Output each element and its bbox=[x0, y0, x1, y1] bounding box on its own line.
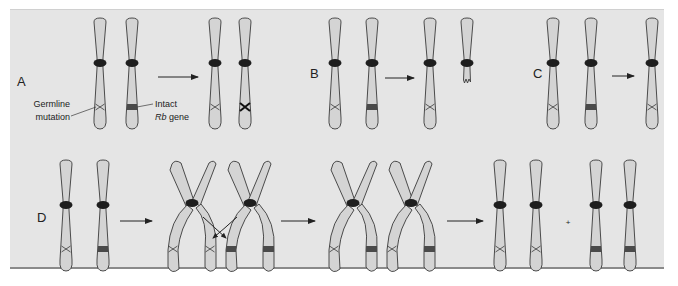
panel-a: A Germline mutation Intact Rb gene bbox=[17, 18, 252, 129]
germline-leader-line bbox=[71, 107, 96, 116]
daughter-homozygous-mutant-1 bbox=[494, 160, 507, 271]
panel-label-c: C bbox=[533, 66, 542, 81]
germline-label-line1: Germline bbox=[33, 99, 70, 109]
chromosome-intact-rb bbox=[126, 18, 139, 129]
chromosome-intact-rb bbox=[97, 160, 110, 271]
rb-gene-loss-diagram: A Germline mutation Intact Rb gene B bbox=[0, 0, 678, 286]
intact-label-line2: Rb gene bbox=[155, 112, 189, 122]
intact-label-line1: Intact bbox=[155, 99, 178, 109]
plus-symbol: + bbox=[566, 218, 571, 227]
panel-d: D bbox=[37, 160, 637, 272]
post-crossover-chromosome-2 bbox=[387, 161, 435, 271]
daughter-homozygous-intact-1 bbox=[590, 160, 603, 271]
result-chromosome-deleted bbox=[461, 18, 474, 83]
result-chromosome-second-mutation bbox=[239, 18, 252, 129]
chromosome-germline-mutation bbox=[60, 160, 73, 271]
chromosome-intact-rb bbox=[366, 18, 379, 129]
result-chromosome-mutation bbox=[646, 18, 659, 129]
daughter-homozygous-intact-2 bbox=[624, 160, 637, 271]
post-crossover-chromosome-1 bbox=[329, 161, 377, 271]
panel-label-b: B bbox=[310, 66, 319, 81]
panel-label-a: A bbox=[17, 74, 26, 89]
panel-c: C bbox=[533, 18, 659, 129]
chromosome-germline-mutation bbox=[329, 18, 342, 129]
result-chromosome-mutation bbox=[424, 18, 437, 129]
panel-b: B bbox=[310, 18, 474, 129]
germline-label-line2: mutation bbox=[35, 112, 70, 122]
chromosome-intact-rb bbox=[585, 18, 598, 129]
panel-label-d: D bbox=[37, 210, 46, 225]
result-chromosome-mutation bbox=[209, 18, 222, 129]
replicated-chromosome-intact bbox=[226, 161, 274, 271]
intact-leader-line bbox=[137, 104, 153, 107]
daughter-homozygous-mutant-2 bbox=[530, 160, 543, 271]
chromosome-germline-mutation bbox=[94, 18, 107, 129]
chromosome-germline-mutation bbox=[547, 18, 560, 129]
replicated-chromosome-mutation bbox=[168, 161, 216, 271]
